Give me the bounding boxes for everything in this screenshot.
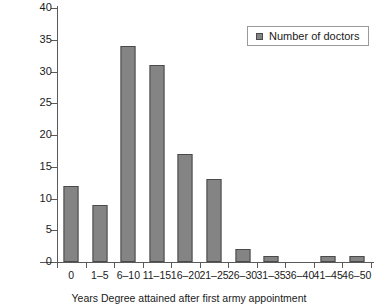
x-axis-tick-label: 0 [68,270,74,281]
x-axis-tick [257,263,258,268]
bar [92,205,107,262]
legend: Number of doctors [247,26,369,46]
bar [121,46,136,262]
x-axis-tick [285,263,286,268]
bar [349,256,364,262]
x-axis-tick-label: 21–25 [199,270,228,281]
bar [149,65,164,262]
bar-slot [86,8,115,262]
bar-slot [57,8,86,262]
bar-slot [143,8,172,262]
x-axis-title: Years Degree attained after first army a… [0,292,378,304]
x-axis-tick-label: 1–5 [91,270,109,281]
bar [264,256,279,262]
bar-slot [200,8,229,262]
bar [321,256,336,262]
x-axis-tick-label: 41–45 [314,270,343,281]
bar-slot [314,8,343,262]
x-axis-tick-label: 26–30 [228,270,257,281]
x-axis-tick [57,263,58,268]
y-axis-tick-label: 25 [12,97,52,108]
x-axis-tick [171,263,172,268]
x-axis-tick-label: 31–35 [256,270,285,281]
bar-series-number-of-doctors [57,8,371,262]
bar-slot [171,8,200,262]
legend-label: Number of doctors [269,31,359,42]
y-axis-tick-label: 15 [12,161,52,172]
y-axis-tick-label: 20 [12,129,52,140]
x-axis-tick [114,263,115,268]
x-axis-tick [342,263,343,268]
x-axis-tick [314,263,315,268]
x-axis-tick-label: 46–50 [342,270,371,281]
bar-slot [285,8,314,262]
x-axis-line [40,262,374,263]
y-axis-tick-label: 35 [12,34,52,45]
x-axis-tick [371,263,372,268]
x-axis-tick-label: 11–15 [143,270,171,281]
x-axis-tick-label: 16–20 [171,270,200,281]
bar-slot [342,8,371,262]
bar-slot [257,8,286,262]
y-axis-tick-label: 40 [12,2,52,13]
y-axis-tick-label: 0 [12,256,52,267]
x-axis-tick [143,263,144,268]
bar-slot [114,8,143,262]
x-axis-tick [200,263,201,268]
bar [64,186,79,262]
y-axis-tick-label: 10 [12,193,52,204]
bar [235,249,250,262]
legend-swatch-icon [256,33,263,40]
x-axis-tick-label: 36–40 [285,270,314,281]
bar-slot [228,8,257,262]
y-axis-tick-label: 30 [12,66,52,77]
bar [178,154,193,262]
x-axis-tick [86,263,87,268]
y-axis-tick-label: 5 [12,224,52,235]
x-axis-tick-label: 6–10 [117,270,140,281]
bar-chart: 0510152025303540 01–56–1011–1516–2021–25… [0,0,378,304]
bar [206,179,221,262]
x-axis-tick [228,263,229,268]
